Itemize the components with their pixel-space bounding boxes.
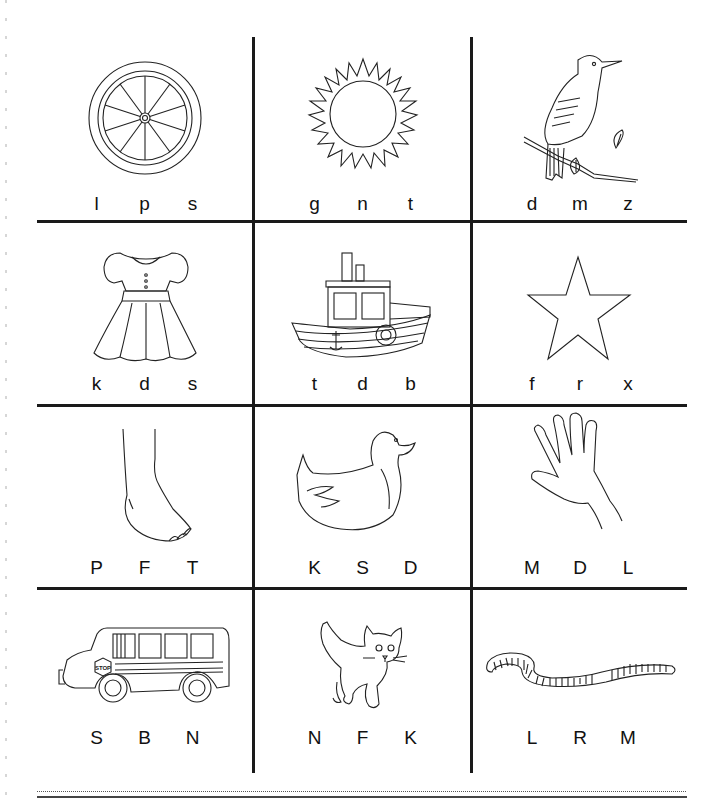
duck-icon xyxy=(293,429,433,535)
letter-choice[interactable]: d xyxy=(508,193,556,215)
letter-choice[interactable]: S xyxy=(339,557,387,579)
letter-choice[interactable]: r xyxy=(556,373,604,395)
cell-school-bus: STOP S B N xyxy=(37,590,252,773)
letter-choice[interactable]: n xyxy=(339,193,387,215)
cell-dress: k d s xyxy=(37,223,252,404)
letter-choice[interactable]: d xyxy=(339,373,387,395)
cell-duck: K S D xyxy=(255,407,470,587)
letter-choice[interactable]: R xyxy=(556,727,604,749)
cell-boat: t d b xyxy=(255,223,470,404)
letter-choice[interactable]: f xyxy=(508,373,556,395)
hand-icon xyxy=(528,411,632,529)
letter-choice[interactable]: T xyxy=(169,557,217,579)
worm-icon xyxy=(482,648,678,688)
cell-hand: M D L xyxy=(473,407,687,587)
letter-choice[interactable]: M xyxy=(508,557,556,579)
letter-choice[interactable]: s xyxy=(169,193,217,215)
letter-choice[interactable]: l xyxy=(73,193,121,215)
cell-foot: P F T xyxy=(37,407,252,587)
letter-choice[interactable]: B xyxy=(121,727,169,749)
cell-sun: g n t xyxy=(255,20,470,220)
letter-choice[interactable]: d xyxy=(121,373,169,395)
star-icon xyxy=(528,257,632,359)
scan-edge-marks xyxy=(5,0,7,800)
letter-choice[interactable]: t xyxy=(387,193,435,215)
letter-choice[interactable]: N xyxy=(169,727,217,749)
letter-choice[interactable]: D xyxy=(387,557,435,579)
letter-choice[interactable]: K xyxy=(291,557,339,579)
letter-choice[interactable]: L xyxy=(604,557,652,579)
dotted-rule xyxy=(37,791,687,792)
cell-worm: L R M xyxy=(473,590,687,773)
school-bus-icon: STOP xyxy=(57,626,233,708)
stop-sign-text: STOP xyxy=(94,665,110,671)
dress-icon xyxy=(92,249,198,363)
sun-icon xyxy=(307,58,419,170)
letter-choice[interactable]: m xyxy=(556,193,604,215)
bottom-rule xyxy=(37,796,687,798)
letter-choice[interactable]: F xyxy=(339,727,387,749)
letter-choice[interactable]: N xyxy=(291,727,339,749)
letter-choice[interactable]: z xyxy=(604,193,652,215)
letter-choice[interactable]: F xyxy=(121,557,169,579)
letter-choice[interactable]: b xyxy=(387,373,435,395)
letter-choice[interactable]: k xyxy=(73,373,121,395)
boat-icon xyxy=(290,253,436,357)
bird-icon xyxy=(518,52,642,182)
kitten-icon xyxy=(317,622,409,712)
letter-choice[interactable]: s xyxy=(169,373,217,395)
letter-choice[interactable]: g xyxy=(291,193,339,215)
foot-icon xyxy=(95,429,195,549)
letter-choice[interactable]: D xyxy=(556,557,604,579)
letter-choice[interactable]: x xyxy=(604,373,652,395)
letter-choice[interactable]: M xyxy=(604,727,652,749)
letter-choice[interactable]: K xyxy=(387,727,435,749)
letter-choice[interactable]: P xyxy=(73,557,121,579)
cell-wagon-wheel: l p s xyxy=(37,20,252,220)
cell-star: f r x xyxy=(473,223,687,404)
letter-choice[interactable]: S xyxy=(73,727,121,749)
letter-choice[interactable]: L xyxy=(508,727,556,749)
cell-kitten: N F K xyxy=(255,590,470,773)
cell-bird: d m z xyxy=(473,20,687,220)
wagon-wheel-icon xyxy=(87,60,203,176)
letter-choice[interactable]: p xyxy=(121,193,169,215)
letter-choice[interactable]: t xyxy=(291,373,339,395)
